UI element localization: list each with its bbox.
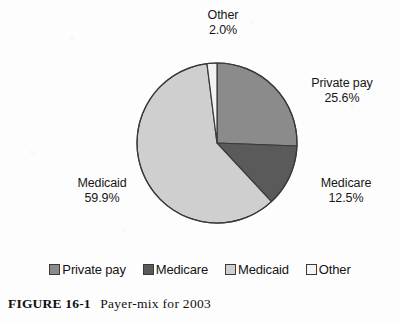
pie-chart-svg	[0, 0, 400, 250]
figure-caption: FIGURE 16-1 Payer-mix for 2003	[8, 296, 400, 312]
legend-item-medicaid[interactable]: Medicaid	[225, 262, 289, 277]
pie-slices	[137, 63, 297, 223]
slice-label-other: Other 2.0%	[168, 8, 278, 37]
slice-label-medicaid-value: 59.9%	[50, 191, 154, 206]
legend-item-private-pay[interactable]: Private pay	[49, 262, 125, 277]
slice-label-medicare-name: Medicare	[321, 176, 372, 190]
slice-label-private-pay-name: Private pay	[311, 76, 372, 90]
legend-swatch-medicaid	[225, 264, 236, 275]
slice-label-other-name: Other	[208, 8, 239, 22]
figure-number: FIGURE 16-1	[8, 296, 91, 311]
legend-label-other: Other	[319, 262, 351, 277]
figure-title: Payer-mix for 2003	[100, 296, 211, 311]
figure-container: Other 2.0% Private pay 25.6% Medicare 12…	[0, 0, 400, 324]
slice-label-private-pay: Private pay 25.6%	[286, 76, 398, 105]
legend-label-private-pay: Private pay	[62, 262, 125, 277]
slice-label-medicare: Medicare 12.5%	[296, 176, 396, 205]
legend-label-medicare: Medicare	[156, 262, 208, 277]
legend-swatch-private-pay	[49, 264, 60, 275]
chart-legend: Private pay Medicare Medicaid Other	[0, 256, 400, 282]
slice-label-medicaid-name: Medicaid	[77, 176, 126, 190]
legend-swatch-other	[306, 264, 317, 275]
pie-slice-private-pay[interactable]	[217, 63, 297, 146]
pie-chart: Other 2.0% Private pay 25.6% Medicare 12…	[0, 0, 400, 250]
legend-swatch-medicare	[143, 264, 154, 275]
slice-label-medicare-value: 12.5%	[296, 191, 396, 206]
legend-item-other[interactable]: Other	[306, 262, 351, 277]
legend-item-medicare[interactable]: Medicare	[143, 262, 208, 277]
legend-label-medicaid: Medicaid	[238, 262, 289, 277]
slice-label-other-value: 2.0%	[168, 23, 278, 38]
slice-label-private-pay-value: 25.6%	[286, 91, 398, 106]
slice-label-medicaid: Medicaid 59.9%	[50, 176, 154, 205]
